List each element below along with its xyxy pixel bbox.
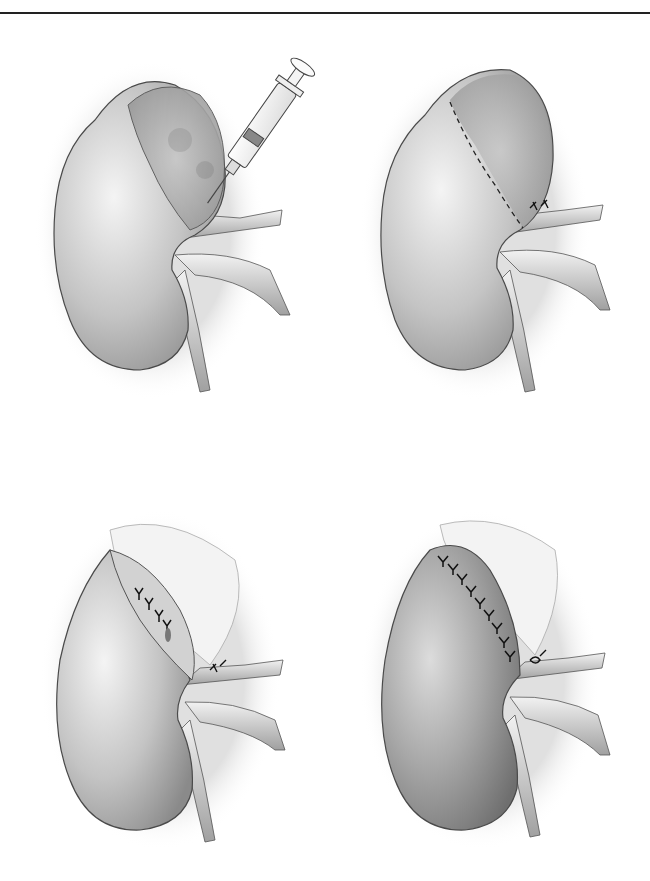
header-rule bbox=[0, 12, 650, 14]
figure-panel-b bbox=[345, 30, 650, 420]
figure-panel-c bbox=[0, 490, 325, 880]
figure-panel-a bbox=[0, 30, 325, 420]
figure-panel-d bbox=[340, 490, 650, 880]
